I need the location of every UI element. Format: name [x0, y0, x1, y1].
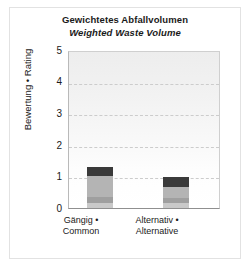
chart-title-block: Gewichtetes Abfallvolumen Weighted Waste…	[0, 14, 250, 39]
y-axis-title: Bewertung • Rating	[22, 15, 33, 165]
x-label-alternative-line2: Alternative	[112, 226, 202, 237]
y-tick-label-0: 0	[40, 204, 62, 214]
y-tick-label-2: 2	[40, 141, 62, 151]
gridline-2	[69, 147, 219, 148]
bar-segment	[87, 167, 113, 176]
plot-area	[68, 51, 220, 209]
bar-common[interactable]	[87, 167, 113, 208]
y-tick-label-4: 4	[40, 77, 62, 87]
chart-title: Gewichtetes Abfallvolumen	[0, 14, 250, 26]
chart-subtitle: Weighted Waste Volume	[0, 27, 250, 39]
x-label-alternative-line1: Alternativ •	[112, 215, 202, 226]
y-tick-label-5: 5	[40, 46, 62, 56]
y-tick-label-3: 3	[40, 109, 62, 119]
gridline-4	[69, 84, 219, 85]
x-label-alternative: Alternativ • Alternative	[112, 215, 202, 237]
y-tick-label-1: 1	[40, 172, 62, 182]
bar-segment	[87, 203, 113, 208]
bar-segment	[163, 187, 189, 198]
bar-segment	[163, 177, 189, 187]
bar-segment	[87, 176, 113, 197]
bar-segment	[163, 203, 189, 208]
bar-alternative[interactable]	[163, 177, 189, 208]
gridline-3	[69, 115, 219, 116]
chart-card: Gewichtetes Abfallvolumen Weighted Waste…	[0, 0, 250, 267]
